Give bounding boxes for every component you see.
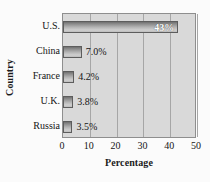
bar-row: 3.8% bbox=[63, 96, 195, 108]
bar-series: 43%7.0%4.2%3.8%3.5% bbox=[63, 14, 195, 137]
x-axis-tick-label: 40 bbox=[164, 140, 174, 152]
plot-area: 43%7.0%4.2%3.8%3.5% bbox=[62, 13, 196, 138]
x-axis-tick-label: 50 bbox=[191, 140, 201, 152]
y-axis-tick-label: U.K. bbox=[18, 95, 60, 106]
bar-data-label: 3.8% bbox=[77, 96, 98, 107]
y-axis-title: Country bbox=[4, 48, 15, 108]
bar[interactable] bbox=[63, 121, 72, 133]
y-axis-tick-label: U.S. bbox=[18, 20, 60, 31]
y-axis-tick-labels: U.S.ChinaFranceU.K.Russia bbox=[18, 13, 60, 138]
bar[interactable]: 43% bbox=[63, 21, 178, 33]
bar-row: 3.5% bbox=[63, 121, 195, 133]
bar[interactable] bbox=[63, 96, 73, 108]
x-axis-tick-labels: 01020304050 bbox=[62, 140, 196, 153]
x-axis-tick-label: 10 bbox=[84, 140, 94, 152]
bar-row: 43% bbox=[63, 21, 195, 33]
bar-row: 7.0% bbox=[63, 46, 195, 58]
bar-chart: Country U.S.ChinaFranceU.K.Russia 43%7.0… bbox=[0, 0, 210, 182]
x-axis-title: Percentage bbox=[62, 157, 196, 168]
x-axis-tick-label: 30 bbox=[137, 140, 147, 152]
y-axis-tick-label: Russia bbox=[18, 120, 60, 131]
bar-data-label: 4.2% bbox=[78, 71, 99, 82]
x-axis-tick-label: 0 bbox=[60, 140, 65, 152]
bar-data-label: 3.5% bbox=[76, 121, 97, 132]
bar[interactable] bbox=[63, 46, 82, 58]
bar-data-label: 7.0% bbox=[86, 46, 107, 57]
y-axis-tick-label: France bbox=[18, 70, 60, 81]
y-axis-tick-label: China bbox=[18, 45, 60, 56]
bar[interactable] bbox=[63, 71, 74, 83]
bar-data-label: 43% bbox=[154, 21, 174, 32]
bar-row: 4.2% bbox=[63, 71, 195, 83]
gridline bbox=[197, 14, 198, 137]
x-axis-tick-label: 20 bbox=[111, 140, 121, 152]
